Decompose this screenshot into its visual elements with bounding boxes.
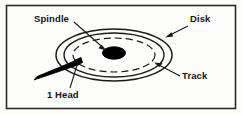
disk-diagram-figure: Spindle Disk Track 1 Head — [0, 0, 242, 115]
head-label: 1 Head — [47, 89, 79, 100]
spindle-hub — [103, 47, 126, 59]
track-label: Track — [182, 70, 208, 81]
spindle-label: Spindle — [34, 13, 69, 24]
disk-diagram-canvas: Spindle Disk Track 1 Head — [0, 0, 242, 115]
disk-label: Disk — [190, 13, 211, 24]
